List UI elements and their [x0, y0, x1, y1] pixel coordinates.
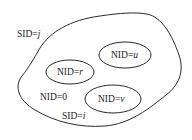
node-zero-label: NID=0 [40, 92, 67, 102]
sid-j-label: SID=j [17, 29, 41, 39]
network-domain-diagram: SID=j NID=r NID=u NID=v NID=0 SID=i [0, 0, 192, 140]
node-r-label: NID=r [57, 67, 83, 77]
node-u-label: NID=u [111, 50, 138, 60]
sid-i-boundary [18, 13, 181, 126]
node-v-label: NID=v [98, 94, 125, 104]
sid-i-label: SID=i [62, 111, 86, 121]
